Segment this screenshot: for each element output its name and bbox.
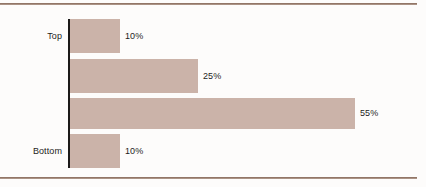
- chart-figure: Top 10% 25% 55% Bottom 10%: [0, 0, 426, 187]
- value-label-bar-2: 25%: [203, 71, 221, 81]
- value-label-bar-3: 55%: [360, 108, 378, 118]
- value-label-bar-4: 10%: [125, 146, 143, 156]
- category-label-top: Top: [47, 31, 62, 41]
- bar-top: [70, 19, 120, 53]
- bar-third: [70, 98, 355, 129]
- category-label-bottom: Bottom: [33, 146, 62, 156]
- plot-area: Top 10% 25% 55% Bottom 10%: [0, 0, 426, 187]
- bar-bottom: [70, 134, 120, 168]
- value-label-bar-1: 10%: [125, 31, 143, 41]
- bar-second: [70, 59, 198, 93]
